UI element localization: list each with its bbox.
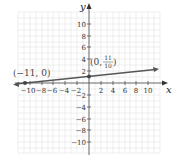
y-tick-label: −2: [76, 92, 86, 100]
y-axis-label: y: [79, 1, 86, 12]
x-tick-label: 8: [134, 87, 138, 95]
y-tick-label: −4: [76, 104, 87, 112]
y-tick-label: −8: [76, 127, 86, 135]
y-tick-label: −10: [71, 139, 86, 147]
point-y-intercept: [87, 75, 91, 79]
y-tick-label: 2: [82, 68, 86, 76]
y-axis-arrow-icon: [87, 3, 92, 9]
x-tick-label: −10: [21, 87, 36, 95]
coordinate-plane: −10 −8 −6 −4 −2 2 4 6 8 10 10 8 6 4 2 −2…: [0, 0, 174, 159]
x-axis-label: x: [166, 84, 172, 95]
fraction-denominator: 10: [104, 62, 112, 69]
y-tick-label: −6: [76, 116, 87, 124]
point-x-intercept: [23, 81, 27, 85]
y-tick-label: 10: [77, 21, 86, 29]
x-tick-label: 6: [123, 87, 128, 95]
y-intercept-prefix: (0,: [90, 57, 102, 67]
x-tick-labels: −10 −8 −6 −4 −2 2 4 6 8 10: [21, 87, 153, 95]
y-tick-label: 8: [82, 33, 86, 41]
y-intercept-label: (0, 11 10 ): [90, 54, 117, 69]
y-tick-label: 6: [82, 44, 87, 52]
x-tick-label: −8: [36, 87, 46, 95]
x-tick-label: 4: [111, 87, 116, 95]
x-tick-label: −4: [59, 87, 70, 95]
x-intercept-label: (−11, 0): [13, 68, 50, 78]
y-tick-labels: 10 8 6 4 2 −2 −4 −6 −8 −10: [71, 21, 86, 147]
x-tick-label: 10: [144, 87, 153, 95]
x-tick-label: −6: [47, 87, 58, 95]
y-tick-label: 4: [82, 56, 87, 64]
y-intercept-suffix: ): [113, 57, 117, 67]
fraction-numerator: 11: [104, 54, 112, 61]
x-tick-label: 2: [99, 87, 103, 95]
y-axis: [87, 3, 92, 155]
